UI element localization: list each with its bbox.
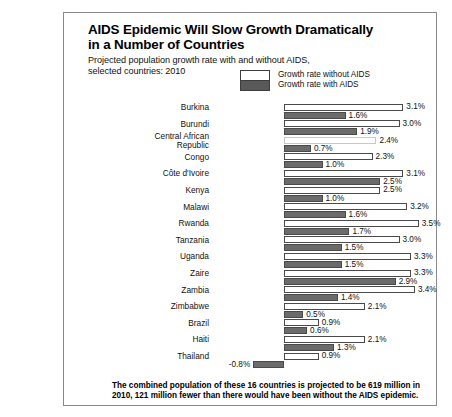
bar-with-aids (284, 211, 346, 218)
bar-line: 1.4% (221, 294, 418, 301)
bar-line: 3.2% (221, 203, 418, 210)
value-label: 3.0% (403, 119, 422, 128)
bar-group: 2.3%1.0% (221, 153, 418, 169)
category-label: Haiti (89, 335, 209, 344)
bar-line: 0.9% (221, 319, 418, 326)
value-label: 2.9% (399, 277, 418, 286)
chart-frame: AIDS Epidemic Will Slow Growth Dramatica… (63, 12, 437, 406)
chart-title: AIDS Epidemic Will Slow Growth Dramatica… (88, 23, 418, 52)
bar-group: 3.0%1.5% (221, 236, 418, 252)
bar-without-aids (284, 120, 400, 127)
bar-group: 3.3%2.9% (221, 270, 418, 286)
bar-with-aids (284, 112, 346, 119)
bar-with-aids (284, 128, 357, 135)
chart-row: Côte d'Ivoire3.1%2.5% (88, 169, 418, 186)
bar-line: 3.3% (221, 253, 418, 260)
bar-line: 3.0% (221, 120, 418, 127)
bar-line: -0.8% (221, 361, 418, 368)
value-label: -0.8% (229, 360, 250, 369)
chart-row: Zaire3.3%2.9% (88, 269, 418, 286)
legend-label-without-aids: Growth rate without AIDS (278, 70, 370, 80)
category-label: Côte d'Ivoire (89, 169, 209, 178)
category-label: Central African Republic (89, 132, 209, 149)
bar-line: 3.0% (221, 236, 418, 243)
category-label: Thailand (89, 352, 209, 361)
bar-with-aids (284, 145, 311, 152)
category-label: Tanzania (89, 236, 209, 245)
bar-line: 1.5% (221, 261, 418, 268)
bar-line: 2.4% (221, 137, 418, 144)
value-label: 3.2% (410, 202, 429, 211)
value-label: 2.3% (376, 152, 395, 161)
chart-row: Congo2.3%1.0% (88, 153, 418, 170)
value-label: 3.1% (406, 169, 425, 178)
chart-row: Rwanda3.5%1.7% (88, 219, 418, 236)
bar-with-aids (284, 195, 323, 202)
bar-with-aids (284, 294, 338, 301)
value-label: 3.5% (422, 219, 441, 228)
chart-row: Thailand0.9%-0.8% (88, 352, 418, 369)
bar-without-aids (284, 187, 380, 194)
bar-line: 2.1% (221, 336, 418, 343)
category-label: Congo (89, 153, 209, 162)
bar-with-aids (284, 278, 396, 285)
category-label: Kenya (89, 186, 209, 195)
category-label: Brazil (89, 319, 209, 328)
chart-row: Brazil0.9%0.6% (88, 319, 418, 336)
bar-with-aids (284, 228, 349, 235)
chart-footnote: The combined population of these 16 coun… (112, 381, 420, 400)
bar-without-aids (284, 236, 400, 243)
legend-swatch-group (240, 70, 270, 91)
bar-with-aids (284, 311, 303, 318)
bar-without-aids (284, 203, 407, 210)
bar-group: 3.3%1.5% (221, 253, 418, 269)
bar-line: 1.6% (221, 112, 418, 119)
bar-line: 1.6% (221, 211, 418, 218)
bar-with-aids (284, 178, 380, 185)
chart-plot-area: Burkina3.1%1.6%Burundi3.0%1.9%Central Af… (88, 103, 418, 370)
bar-line: 0.5% (221, 311, 418, 318)
bar-line: 3.1% (221, 170, 418, 177)
chart-title-line-1: AIDS Epidemic Will Slow Growth Dramatica… (88, 23, 418, 38)
bar-line: 1.3% (221, 344, 418, 351)
bar-line: 1.0% (221, 195, 418, 202)
bar-group: 3.5%1.7% (221, 220, 418, 236)
bar-group: 2.1%0.5% (221, 303, 418, 319)
bar-with-aids (253, 361, 284, 368)
value-label: 1.5% (345, 243, 364, 252)
bar-group: 0.9%-0.8% (221, 353, 418, 369)
bar-group: 2.1%1.3% (221, 336, 418, 352)
chart-subtitle-line-1: Projected population growth rate with an… (88, 55, 418, 66)
chart-title-line-2: in a Number of Countries (88, 38, 418, 53)
bar-group: 2.5%1.0% (221, 187, 418, 203)
bar-with-aids (284, 344, 334, 351)
legend-swatch-with-aids (241, 81, 269, 90)
bar-line: 2.1% (221, 303, 418, 310)
chart-row: Uganda3.3%1.5% (88, 252, 418, 269)
chart-row: Burkina3.1%1.6% (88, 103, 418, 120)
chart-row: Tanzania3.0%1.5% (88, 236, 418, 253)
legend-swatch-without-aids (241, 71, 269, 81)
bar-line: 0.6% (221, 327, 418, 334)
value-label: 1.0% (326, 194, 345, 203)
category-label: Rwanda (89, 219, 209, 228)
bar-group: 3.1%2.5% (221, 170, 418, 186)
value-label: 3.1% (406, 102, 425, 111)
bar-with-aids (284, 161, 323, 168)
category-label: Zaire (89, 269, 209, 278)
category-label: Zambia (89, 286, 209, 295)
chart-row: Kenya2.5%1.0% (88, 186, 418, 203)
chart-row: Haiti2.1%1.3% (88, 335, 418, 352)
bar-line: 3.5% (221, 220, 418, 227)
value-label: 1.6% (349, 111, 368, 120)
bar-without-aids (284, 270, 411, 277)
chart-row: Zimbabwe2.1%0.5% (88, 302, 418, 319)
value-label: 1.0% (326, 160, 345, 169)
value-label: 2.1% (368, 302, 387, 311)
bar-line: 2.3% (221, 153, 418, 160)
value-label: 3.0% (403, 235, 422, 244)
value-label: 1.9% (360, 127, 379, 136)
category-label: Burundi (89, 120, 209, 129)
value-label: 2.4% (379, 136, 398, 145)
bar-without-aids (284, 303, 365, 310)
